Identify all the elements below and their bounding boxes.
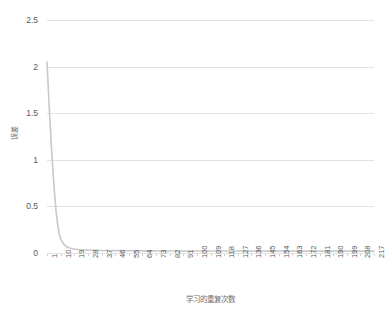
y-axis-tick-label: 1 [33,155,38,165]
x-axis-tick-label: 190 [336,245,345,258]
x-axis-tick-label: 154 [282,245,291,258]
x-axis-tick-label: 1 [50,254,59,258]
y-axis-tick-label: 1.5 [26,108,38,118]
x-axis-tick-mark [360,254,361,256]
y-axis-tick-label: 2.5 [26,15,38,25]
x-axis-tick-mark [347,254,348,256]
series-line-error [47,62,374,251]
x-axis-tick-mark [74,254,75,256]
x-axis-tick-label: 163 [295,245,304,258]
plot-area [47,20,374,253]
x-axis-tick-mark [47,254,48,256]
x-axis-tick-label: 100 [200,245,209,258]
x-axis-tick-mark [238,254,239,256]
x-axis-tick-mark [88,254,89,256]
x-axis-tick-mark [61,254,62,256]
x-axis-tick-mark [279,254,280,256]
x-axis-tick-mark [292,254,293,256]
x-axis-tick-label: 37 [105,250,114,258]
y-axis-tick-label: 2 [33,62,38,72]
x-axis-tick-mark [142,254,143,256]
x-axis-tick-mark [156,254,157,256]
x-axis-tick-mark [333,254,334,256]
x-axis-tick-mark [224,254,225,256]
x-axis-tick-mark [197,254,198,256]
error-decay-chart: 误差 00.511.522.5 110192837465564738291100… [0,0,390,312]
x-axis-tick-label: 136 [254,245,263,258]
x-axis-tick-mark [374,254,375,256]
x-axis-tick-mark [211,254,212,256]
x-axis-tick-label: 127 [241,245,250,258]
x-axis-tick-label: 172 [309,245,318,258]
x-axis-tick-mark [183,254,184,256]
x-axis-tick-label: 82 [173,250,182,258]
x-axis-tick-mark [265,254,266,256]
x-axis-tick-label: 109 [214,245,223,258]
x-axis-tick-mark [170,254,171,256]
x-axis-tick-label: 181 [323,245,332,258]
x-axis-tick-label: 55 [132,250,141,258]
x-axis-title: 学习的重复次数 [47,293,374,304]
y-axis-tick-label: 0.5 [26,201,38,211]
x-axis-tick-mark [129,254,130,256]
x-axis-tick-label: 73 [159,250,168,258]
series-layer [47,20,374,253]
x-axis-tick-label: 91 [186,250,195,258]
x-axis-tick-label: 118 [227,246,236,258]
x-axis-tick-label: 46 [118,250,127,258]
x-axis-tick-mark [115,254,116,256]
x-axis-tick-label: 64 [145,250,154,258]
x-axis-tick-mark [102,254,103,256]
x-axis-tick-mark [306,254,307,256]
x-axis-tick-label: 199 [350,245,359,258]
x-axis-tick-label: 28 [91,250,100,258]
x-axis-tick-label: 10 [64,250,73,258]
x-axis-tick-labels: 1101928374655647382911001091181271361451… [47,254,374,294]
x-axis-tick-mark [251,254,252,256]
x-axis-tick-label: 208 [363,245,372,258]
y-axis-tick-label: 0 [33,248,38,258]
x-axis-tick-label: 217 [377,245,386,258]
x-axis-tick-mark [320,254,321,256]
y-axis-tick-labels: 00.511.522.5 [0,20,42,253]
x-axis-tick-label: 19 [77,250,86,258]
x-axis-tick-label: 145 [268,245,277,258]
